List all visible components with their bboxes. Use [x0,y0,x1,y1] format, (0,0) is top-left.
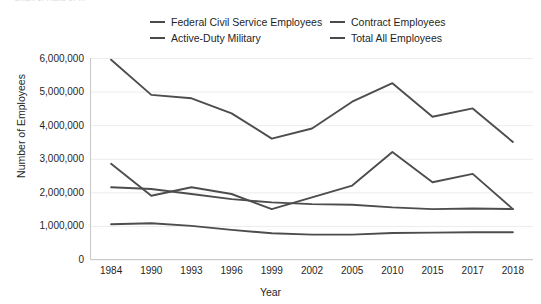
x-axis-tick-label: 2005 [341,265,364,276]
chart-container: Chart 1. Ratio of ... Federal Civil Serv… [0,0,541,304]
series-line-contract-employees [111,152,513,209]
plot-area: 01,000,0002,000,0003,000,0004,000,0005,0… [0,0,541,304]
x-axis-tick-label: 2015 [421,265,444,276]
x-axis-tick-label: 1984 [100,265,123,276]
series-line-active-duty-military [111,223,513,234]
series-line-total-all-employees [111,60,513,142]
x-axis-tick-label: 1993 [180,265,203,276]
x-axis-tick-label: 1999 [261,265,284,276]
x-axis-title: Year [0,286,541,298]
x-axis-tick-label: 1996 [221,265,244,276]
y-axis-tick-label: 1,000,000 [40,220,85,231]
y-axis-tick-label: 6,000,000 [40,53,85,64]
x-axis-tick-label: 2002 [301,265,324,276]
y-axis-tick-label: 2,000,000 [40,187,85,198]
y-axis-tick-label: 4,000,000 [40,120,85,131]
x-axis-tick-label: 2018 [502,265,525,276]
x-axis-tick-labels: 1984199019931996199920022005201020152017… [100,265,525,276]
y-axis-tick-labels: 01,000,0002,000,0003,000,0004,000,0005,0… [40,53,85,266]
x-axis-tick-label: 2010 [381,265,404,276]
y-axis-tick-label: 0 [78,254,84,265]
y-axis-tick-label: 3,000,000 [40,153,85,164]
y-axis-tick-label: 5,000,000 [40,86,85,97]
series-lines [111,60,513,235]
x-axis-tick-label: 1990 [140,265,163,276]
gridlines [91,59,533,261]
x-axis-tick-label: 2017 [462,265,485,276]
